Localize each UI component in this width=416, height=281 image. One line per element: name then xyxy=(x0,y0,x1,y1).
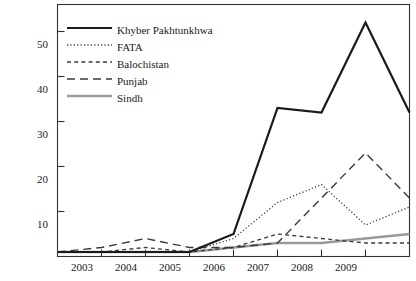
y-tick-label: 40 xyxy=(22,83,48,95)
series-line-punjab xyxy=(58,153,410,252)
data-series-group xyxy=(58,23,410,253)
series-line-balochistan xyxy=(58,234,410,252)
legend-label-fata: FATA xyxy=(117,41,143,53)
y-tick-label: 20 xyxy=(22,173,48,185)
plot-area xyxy=(0,0,416,281)
series-line-sindh xyxy=(58,234,410,252)
line-chart: 50 40 30 20 10 2003 2004 2005 2006 2007 … xyxy=(0,0,416,281)
x-tick-label: 2003 xyxy=(62,261,102,273)
y-tick-label: 30 xyxy=(22,128,48,140)
y-tick-label: 50 xyxy=(22,38,48,50)
legend-label-khyber-pakhtunkhwa: Khyber Pakhtunkhwa xyxy=(117,24,213,36)
y-tick-label: 10 xyxy=(22,218,48,230)
x-tick-label: 2004 xyxy=(106,261,146,273)
series-line-fata xyxy=(58,185,410,253)
x-tick-label: 2009 xyxy=(326,261,366,273)
legend-label-balochistan: Balochistan xyxy=(117,58,169,70)
legend-swatch-group xyxy=(67,28,112,96)
x-tick-label: 2006 xyxy=(194,261,234,273)
legend-label-sindh: Sindh xyxy=(117,92,143,104)
x-tick-label: 2005 xyxy=(150,261,190,273)
y-axis-ticks xyxy=(58,32,65,212)
x-tick-label: 2008 xyxy=(282,261,322,273)
x-tick-label: 2007 xyxy=(238,261,278,273)
legend-label-punjab: Punjab xyxy=(117,75,148,87)
